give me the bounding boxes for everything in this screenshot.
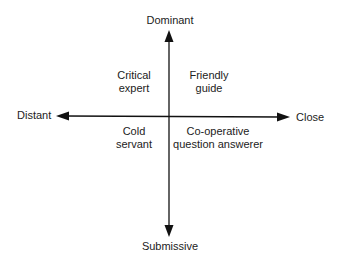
arrow-left-icon [56,112,69,121]
horizontal-axis [56,112,290,122]
axis-label-submissive: Submissive [142,240,198,253]
arrow-down-icon [165,225,174,237]
quadrant-bottom-right: Co-operative question answerer [173,125,263,151]
quadrant-bottom-left: Cold servant [116,125,152,151]
axis-label-distant: Distant [17,109,51,122]
quadrant-top-right: Friendly guide [189,69,228,95]
arrow-right-icon [277,113,290,122]
axis-label-dominant: Dominant [146,14,193,27]
arrow-up-icon [165,30,174,42]
quadrant-top-left: Critical expert [117,69,151,95]
axes-graphic [0,0,338,258]
axis-label-close: Close [296,111,324,124]
